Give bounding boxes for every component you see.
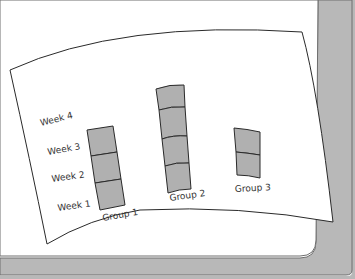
illustration: Week 4 Week 3 Week 2 Week 1 Group 1 Grou… xyxy=(0,0,355,279)
bar-group-3 xyxy=(234,128,260,178)
x-label-group-3: Group 3 xyxy=(235,182,271,194)
chart-illustration: Week 4 Week 3 Week 2 Week 1 Group 1 Grou… xyxy=(0,0,355,279)
